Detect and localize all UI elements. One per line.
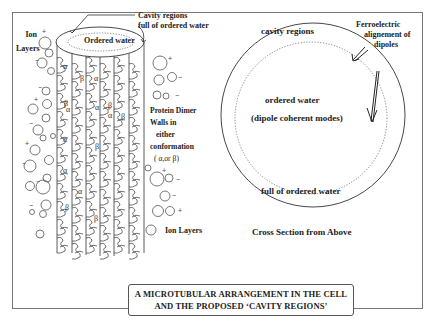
- ferroelectric-arrows: [352, 47, 379, 122]
- negative-charge-icon: −: [175, 92, 179, 99]
- cavity-regions-line1: Cavity regions: [138, 11, 209, 21]
- negative-charge-icon: −: [176, 176, 180, 183]
- cavity-regions-top-label: cavity regions: [261, 26, 314, 36]
- caption-line2: AND THE PROPOSED ‘CAVITY REGIONS’: [129, 300, 353, 312]
- beta-label: β: [108, 102, 112, 110]
- ion-layers-line1: Ion: [16, 28, 40, 42]
- protein-dimer-line3: either: [150, 129, 196, 141]
- protein-dimer-label: Protein Dimer Walls in either conformati…: [150, 105, 196, 165]
- positive-charge-icon: +: [178, 207, 182, 214]
- negative-charge-icon: −: [178, 74, 182, 81]
- cavity-regions-line2: full of ordered water: [138, 21, 209, 31]
- negative-charge-icon: −: [172, 192, 176, 199]
- dipole-coherent-modes-label: (dipole coherent modes): [251, 113, 343, 123]
- beta-label: β: [95, 143, 99, 151]
- alpha-label: α: [63, 167, 67, 175]
- negative-charge-icon: −: [35, 57, 39, 64]
- positive-charge-icon: +: [168, 55, 172, 62]
- figure-caption: A MICROTUBULAR ARRANGEMENT IN THE CELL A…: [128, 284, 354, 316]
- negative-charge-icon: −: [29, 120, 33, 127]
- positive-charge-icon: +: [162, 167, 166, 174]
- caption-line1: A MICROTUBULAR ARRANGEMENT IN THE CELL: [129, 288, 353, 300]
- ion-layers-bottom-label: Ion Layers: [165, 226, 202, 236]
- negative-charge-icon: −: [22, 160, 26, 167]
- full-of-ordered-water-label: full of ordered water: [261, 186, 341, 196]
- positive-charge-icon: +: [25, 140, 29, 147]
- alpha-label: α: [95, 104, 99, 112]
- protein-dimer-line5: ( α,or β): [150, 153, 196, 165]
- cavity-regions-label: Cavity regions full of ordered water: [138, 11, 209, 31]
- ion-layers-line2: Layers: [16, 42, 40, 56]
- beta-label: β: [65, 204, 69, 212]
- beta-label: β: [121, 113, 125, 121]
- alpha-label: α: [63, 63, 67, 71]
- negative-charge-icon: −: [29, 202, 33, 209]
- ordered-water-center-label: ordered water: [265, 95, 320, 105]
- alpha-label: α: [63, 136, 67, 144]
- ferroelectric-line1: Ferroelectric: [356, 20, 410, 30]
- ion-layers-top-label: Ion Layers: [16, 28, 40, 56]
- protein-dimer-wall: [57, 57, 140, 259]
- beta-label: β: [94, 215, 98, 223]
- negative-charge-icon: −: [36, 178, 40, 185]
- alpha-label: α: [78, 188, 82, 196]
- protein-dimer-line2: Walls in: [150, 117, 196, 129]
- ferroelectric-label: Ferroelectric alignement of dipoles: [356, 20, 410, 50]
- protein-dimer-line1: Protein Dimer: [150, 105, 196, 117]
- positive-charge-icon: +: [34, 96, 38, 103]
- protein-dimer-line4: conformation: [150, 141, 196, 153]
- positive-charge-icon: +: [42, 28, 46, 35]
- ordered-water-ellipse-label: Ordered water: [84, 36, 135, 46]
- ferroelectric-line2: alignement of: [356, 30, 410, 40]
- beta-label: β: [80, 75, 84, 83]
- ferroelectric-line3: dipoles: [356, 40, 410, 50]
- negative-charge-icon: −: [38, 84, 42, 91]
- alpha-label: α: [66, 106, 70, 114]
- alpha-label: α: [94, 75, 98, 83]
- microtubule-cylinder: [57, 42, 144, 256]
- alpha-label: α: [108, 112, 112, 120]
- cross-section-subtitle: Cross Section from Above: [252, 227, 351, 237]
